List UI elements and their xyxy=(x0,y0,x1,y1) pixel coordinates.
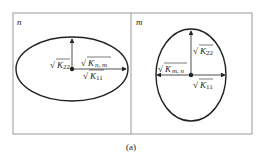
center-dot xyxy=(189,73,193,77)
ellipse-diagram: n √ K 22 √ K n, m √ K 11 m xyxy=(0,0,261,163)
label-sqrt-knm: √ K n, m xyxy=(81,57,111,69)
svg-text:√: √ xyxy=(193,80,198,90)
svg-text:m, n: m, n xyxy=(172,67,185,75)
outer-frame xyxy=(13,13,252,134)
svg-text:√: √ xyxy=(81,58,86,68)
label-sqrt-k22: √ K 22 xyxy=(50,59,71,71)
caption: (a) xyxy=(126,142,136,152)
panel-n: n √ K 22 √ K n, m √ K 11 xyxy=(16,17,128,101)
svg-text:K: K xyxy=(87,58,95,68)
panel-label-m: m xyxy=(136,17,143,27)
svg-text:√: √ xyxy=(50,60,55,70)
label-sqrt-k22: √ K 22 xyxy=(193,45,214,57)
label-sqrt-k11: √ K 11 xyxy=(193,79,213,91)
svg-text:√: √ xyxy=(158,64,163,74)
svg-text:22: 22 xyxy=(206,49,214,57)
svg-text:√: √ xyxy=(193,46,198,56)
panel-m: m √ K 22 √ K m, n √ K 11 xyxy=(136,17,226,121)
center-dot xyxy=(70,67,74,71)
label-sqrt-kmn: √ K m, n xyxy=(158,63,187,75)
svg-text:11: 11 xyxy=(206,83,213,91)
panel-label-n: n xyxy=(17,17,22,27)
svg-text:√: √ xyxy=(83,71,88,81)
svg-text:22: 22 xyxy=(63,63,71,71)
svg-text:n, m: n, m xyxy=(95,61,107,69)
svg-text:11: 11 xyxy=(96,74,103,82)
label-sqrt-k11: √ K 11 xyxy=(83,70,104,82)
svg-text:K: K xyxy=(164,64,172,74)
